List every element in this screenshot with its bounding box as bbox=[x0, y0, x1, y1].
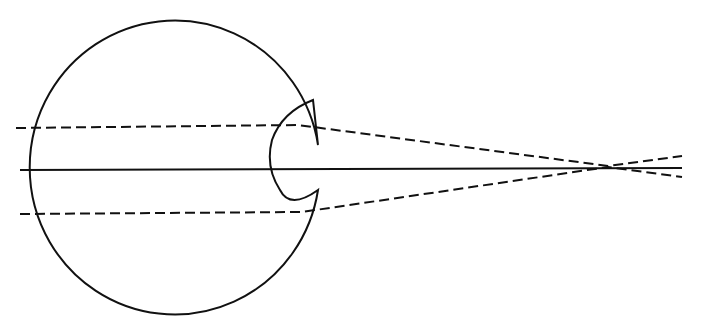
eyeball-outline bbox=[30, 20, 318, 314]
lower-ray bbox=[20, 167, 682, 214]
optical-axis bbox=[20, 168, 682, 170]
upper-ray bbox=[16, 125, 682, 166]
eye-diagram bbox=[0, 0, 705, 331]
diagram-canvas: Hyperopia: rays focus behind the retina … bbox=[0, 0, 705, 331]
cornea-outline bbox=[271, 105, 318, 228]
